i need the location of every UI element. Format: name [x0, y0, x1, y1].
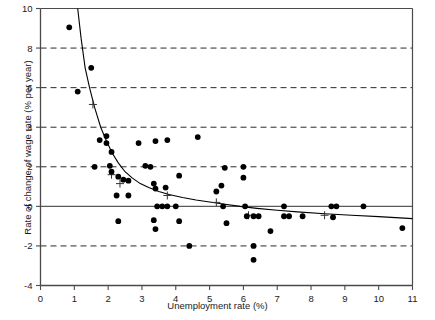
svg-text:10: 10 — [22, 3, 33, 14]
scatter-plot-canvas: 01234567891011 -4-20246810 — [0, 0, 435, 320]
axes-group — [41, 9, 413, 286]
x-axis-title: Unemployment rate (%) — [0, 300, 435, 311]
phillips-curve-figure: 01234567891011 -4-20246810 Unemployment … — [0, 0, 435, 320]
fitted-curve — [78, 9, 413, 219]
data-points-group — [66, 24, 405, 262]
svg-text:-4: -4 — [24, 280, 32, 291]
y-axis-title: Rate of change of wage rate (% per year) — [22, 28, 33, 268]
gridlines-group — [41, 48, 413, 246]
